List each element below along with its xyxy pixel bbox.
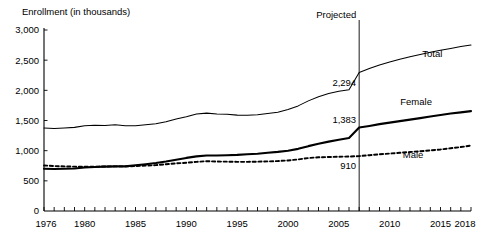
y-tick-2500: 2,500 xyxy=(15,55,39,66)
x-tick-2018: 2018 xyxy=(454,218,475,229)
y-tick-0: 0 xyxy=(34,205,39,216)
x-axis-tick-marks xyxy=(44,207,471,211)
y-tick-1000: 1,000 xyxy=(15,145,39,156)
x-tick-2010: 2010 xyxy=(379,218,400,229)
series-line-female xyxy=(44,111,471,169)
x-tick-1990: 1990 xyxy=(176,218,197,229)
y-axis-tick-labels: 05001,0001,5002,0002,5003,000 xyxy=(15,24,39,216)
chart-container: Enrollment (in thousands) 05001,0001,500… xyxy=(0,0,481,238)
x-tick-1976: 1976 xyxy=(35,218,56,229)
x-tick-2015: 2015 xyxy=(430,218,451,229)
x-tick-1995: 1995 xyxy=(227,218,248,229)
series-label-male: Male xyxy=(403,149,424,160)
y-tick-1500: 1,500 xyxy=(15,115,39,126)
enrollment-line-chart: Enrollment (in thousands) 05001,0001,500… xyxy=(0,0,481,238)
male-value-label: 910 xyxy=(340,160,356,171)
x-tick-2005: 2005 xyxy=(328,218,349,229)
series-line-total xyxy=(44,45,471,129)
total-value-label: 2,294 xyxy=(332,77,356,88)
y-tick-500: 500 xyxy=(23,175,39,186)
series-label-female: Female xyxy=(400,96,432,107)
series-label-total: Total xyxy=(422,48,442,59)
female-value-label: 1,383 xyxy=(332,114,356,125)
x-tick-1980: 1980 xyxy=(74,218,95,229)
x-tick-1985: 1985 xyxy=(125,218,146,229)
x-tick-2000: 2000 xyxy=(277,218,298,229)
x-axis-tick-labels: 1976198019851990199520002005201020152018 xyxy=(35,218,475,229)
chart-title: Enrollment (in thousands) xyxy=(22,6,130,17)
y-tick-3000: 3,000 xyxy=(15,24,39,35)
y-tick-2000: 2,000 xyxy=(15,85,39,96)
projected-label: Projected xyxy=(316,9,356,20)
